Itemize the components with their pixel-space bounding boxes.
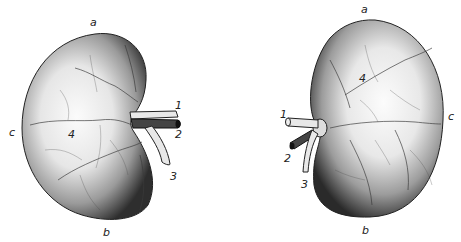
kidney-illustration: a b c 1 2 3 4 a b c 1 2 3 4 bbox=[0, 0, 461, 242]
left-kidney bbox=[22, 33, 181, 219]
right-label-a: a bbox=[361, 3, 368, 16]
left-vessel-1 bbox=[130, 111, 178, 119]
right-label-b: b bbox=[362, 224, 369, 237]
right-label-1: 1 bbox=[280, 108, 287, 121]
right-label-2: 2 bbox=[284, 152, 291, 165]
right-kidney bbox=[286, 20, 444, 217]
left-label-3: 3 bbox=[170, 170, 177, 183]
left-label-4: 4 bbox=[68, 128, 75, 141]
right-kidney-body bbox=[311, 20, 444, 217]
left-label-a: a bbox=[90, 16, 97, 29]
left-label-c: c bbox=[9, 126, 15, 139]
right-label-c: c bbox=[448, 110, 454, 123]
right-label-3: 3 bbox=[301, 178, 308, 191]
right-label-4: 4 bbox=[359, 72, 366, 85]
left-ureter-3 bbox=[145, 126, 170, 165]
right-vessel-1 bbox=[288, 118, 318, 128]
left-label-2: 2 bbox=[175, 128, 182, 141]
left-label-1: 1 bbox=[175, 99, 182, 112]
left-vessel-2 bbox=[131, 119, 180, 128]
left-label-b: b bbox=[103, 226, 110, 239]
